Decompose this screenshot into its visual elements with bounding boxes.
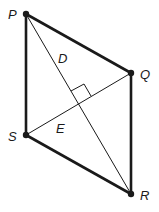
label-d: D [58,51,67,66]
vertex-r-dot [128,191,134,197]
side-pq [26,14,131,73]
vertex-p-dot [23,11,29,17]
diagonal-sq [26,73,131,135]
label-e: E [56,121,65,136]
label-s: S [8,129,17,144]
parallelogram-diagram: P Q R S D E [0,0,159,212]
side-rs [26,135,131,194]
vertex-s-dot [23,132,29,138]
right-angle-marker [71,84,91,96]
label-r: R [140,188,149,203]
label-p: P [8,7,17,22]
label-q: Q [140,67,150,82]
vertex-q-dot [128,70,134,76]
